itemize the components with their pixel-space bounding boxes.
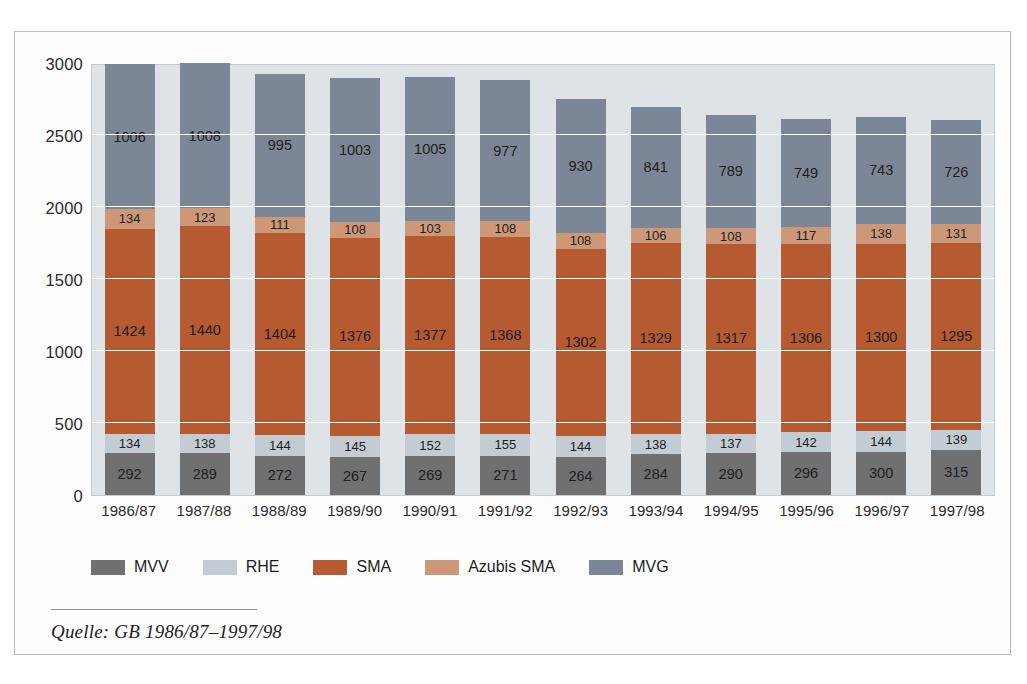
x-axis-tick-label: 1990/91 bbox=[393, 502, 467, 530]
bar-segment[interactable]: 155 bbox=[480, 434, 530, 456]
bar-segment[interactable]: 139 bbox=[931, 430, 981, 450]
bar-segment[interactable]: 284 bbox=[631, 454, 681, 495]
legend-label: MVV bbox=[134, 558, 169, 576]
bar-segment[interactable]: 1300 bbox=[856, 244, 906, 431]
bar-segment[interactable]: 111 bbox=[255, 217, 305, 233]
bar-stack[interactable]: 9301081302144264 bbox=[556, 99, 606, 495]
bar-segment[interactable]: 743 bbox=[856, 117, 906, 224]
bar-segment[interactable]: 1008 bbox=[180, 63, 230, 208]
bar-segment[interactable]: 292 bbox=[105, 453, 155, 495]
legend-swatch bbox=[425, 560, 459, 575]
bar-segment[interactable]: 1006 bbox=[105, 64, 155, 209]
bar-stack[interactable]: 7261311295139315 bbox=[931, 120, 981, 495]
bar-segment[interactable]: 108 bbox=[480, 221, 530, 237]
y-axis-tick-label: 0 bbox=[23, 487, 83, 506]
legend-swatch bbox=[91, 560, 125, 575]
bar-segment[interactable]: 726 bbox=[931, 120, 981, 225]
bar-segment[interactable]: 144 bbox=[856, 431, 906, 452]
bar-segment[interactable]: 1317 bbox=[706, 244, 756, 434]
x-axis: 1986/871987/881988/891989/901990/911991/… bbox=[91, 502, 995, 530]
x-axis-tick-label: 1995/96 bbox=[770, 502, 844, 530]
bar-segment[interactable]: 977 bbox=[480, 80, 530, 221]
bar-segment[interactable]: 142 bbox=[781, 432, 831, 452]
y-axis-tick-label: 2500 bbox=[23, 127, 83, 146]
bar-stack[interactable]: 10061341424134292 bbox=[105, 64, 155, 495]
bar-segment[interactable]: 1329 bbox=[631, 243, 681, 434]
bar-segment[interactable]: 1424 bbox=[105, 229, 155, 434]
bar-segment[interactable]: 144 bbox=[556, 436, 606, 457]
y-axis-tick-label: 3000 bbox=[23, 55, 83, 74]
bar-segment[interactable]: 103 bbox=[405, 221, 455, 236]
bar-segment[interactable]: 841 bbox=[631, 107, 681, 228]
bar-segment[interactable]: 296 bbox=[781, 452, 831, 495]
bar-stack[interactable]: 7491171306142296 bbox=[781, 119, 831, 495]
bar-segment[interactable]: 108 bbox=[706, 228, 756, 244]
bar-stack[interactable]: 10051031377152269 bbox=[405, 77, 455, 495]
legend-item[interactable]: RHE bbox=[203, 558, 280, 576]
bar-segment[interactable]: 134 bbox=[105, 434, 155, 453]
bar-segment[interactable]: 138 bbox=[631, 434, 681, 454]
legend-swatch bbox=[203, 560, 237, 575]
legend-label: Azubis SMA bbox=[468, 558, 555, 576]
bar-segment[interactable]: 137 bbox=[706, 434, 756, 454]
bar-segment[interactable]: 315 bbox=[931, 450, 981, 495]
bar-stack[interactable]: 7431381300144300 bbox=[856, 117, 906, 495]
y-axis-tick-label: 1000 bbox=[23, 343, 83, 362]
bar-segment[interactable]: 749 bbox=[781, 119, 831, 227]
bar-segment[interactable]: 272 bbox=[255, 456, 305, 495]
bar-segment[interactable]: 267 bbox=[330, 457, 380, 495]
bar-segment[interactable]: 1302 bbox=[556, 249, 606, 436]
bar-segment[interactable]: 1440 bbox=[180, 226, 230, 433]
legend: MVVRHESMAAzubis SMAMVG bbox=[91, 554, 669, 580]
bar-segment[interactable]: 789 bbox=[706, 115, 756, 229]
bar-segment[interactable]: 1376 bbox=[330, 238, 380, 436]
bar-segment[interactable]: 264 bbox=[556, 457, 606, 495]
bar-segment[interactable]: 145 bbox=[330, 436, 380, 457]
bar-segment[interactable]: 144 bbox=[255, 435, 305, 456]
legend-swatch bbox=[589, 560, 623, 575]
x-axis-tick-label: 1988/89 bbox=[242, 502, 316, 530]
bar-segment[interactable]: 1377 bbox=[405, 236, 455, 434]
bar-stack[interactable]: 8411061329138284 bbox=[631, 107, 681, 495]
bar-segment[interactable]: 134 bbox=[105, 209, 155, 228]
x-axis-tick-label: 1986/87 bbox=[92, 502, 166, 530]
bar-segment[interactable]: 108 bbox=[330, 222, 380, 238]
y-axis-tick-label: 1500 bbox=[23, 271, 83, 290]
legend-item[interactable]: SMA bbox=[313, 558, 391, 576]
bar-stack[interactable]: 9951111404144272 bbox=[255, 74, 305, 495]
bar-segment[interactable]: 1404 bbox=[255, 233, 305, 435]
bar-segment[interactable]: 300 bbox=[856, 452, 906, 495]
y-axis-tick-label: 2000 bbox=[23, 199, 83, 218]
bar-segment[interactable]: 930 bbox=[556, 99, 606, 233]
bar-segment[interactable]: 1368 bbox=[480, 237, 530, 434]
bar-segment[interactable]: 123 bbox=[180, 208, 230, 226]
bar-segment[interactable]: 269 bbox=[405, 456, 455, 495]
bar-segment[interactable]: 152 bbox=[405, 434, 455, 456]
bar-segment[interactable]: 138 bbox=[856, 224, 906, 244]
source-divider bbox=[51, 609, 257, 610]
legend-item[interactable]: MVG bbox=[589, 558, 668, 576]
bar-stack[interactable]: 10031081376145267 bbox=[330, 78, 380, 495]
bar-segment[interactable]: 1295 bbox=[931, 243, 981, 429]
legend-label: MVG bbox=[632, 558, 668, 576]
bar-segment[interactable]: 117 bbox=[781, 227, 831, 244]
x-axis-tick-label: 1992/93 bbox=[544, 502, 618, 530]
legend-item[interactable]: Azubis SMA bbox=[425, 558, 555, 576]
bar-segment[interactable]: 106 bbox=[631, 228, 681, 243]
bar-segment[interactable]: 290 bbox=[706, 453, 756, 495]
bar-segment[interactable]: 1005 bbox=[405, 77, 455, 222]
legend-item[interactable]: MVV bbox=[91, 558, 169, 576]
bar-stack[interactable]: 10081231440138289 bbox=[180, 63, 230, 495]
bar-stack[interactable]: 9771081368155271 bbox=[480, 80, 530, 495]
bar-segment[interactable]: 138 bbox=[180, 434, 230, 454]
bar-segment[interactable]: 108 bbox=[556, 233, 606, 249]
bar-stack[interactable]: 7891081317137290 bbox=[706, 115, 756, 495]
bar-segment[interactable]: 289 bbox=[180, 453, 230, 495]
bar-segment[interactable]: 131 bbox=[931, 224, 981, 243]
x-axis-tick-label: 1993/94 bbox=[619, 502, 693, 530]
bar-group: 1006134142413429210081231440138289995111… bbox=[92, 65, 994, 495]
bar-segment[interactable]: 1003 bbox=[330, 78, 380, 222]
bar-segment[interactable]: 995 bbox=[255, 74, 305, 217]
bar-segment[interactable]: 1306 bbox=[781, 244, 831, 432]
bar-segment[interactable]: 271 bbox=[480, 456, 530, 495]
